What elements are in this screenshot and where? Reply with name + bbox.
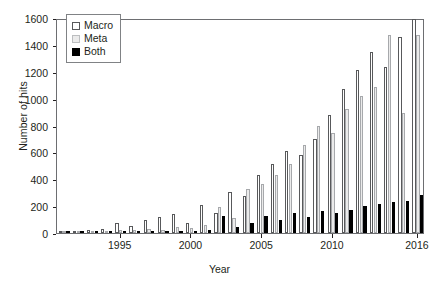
bar-both (349, 210, 352, 233)
bar-both (95, 231, 98, 233)
y-tick-label: 600 (18, 148, 48, 159)
bar-macro (172, 214, 175, 233)
bar-group (313, 20, 324, 233)
bar-macro (129, 226, 132, 233)
bar-macro (144, 220, 147, 233)
bar-group (370, 20, 381, 233)
bar-group (384, 20, 395, 233)
bar-group (158, 20, 169, 233)
bar-meta (402, 113, 405, 233)
bar-meta (345, 109, 348, 233)
bar-meta (374, 87, 377, 233)
x-tick-mark (120, 234, 121, 238)
bar-meta (147, 229, 150, 233)
bar-group (200, 20, 211, 233)
bar-both (264, 216, 267, 233)
bar-meta (246, 189, 249, 233)
bar-meta (62, 231, 65, 233)
bar-both (194, 231, 197, 233)
bar-both (137, 231, 140, 233)
bar-macro (285, 151, 288, 233)
y-tick-label: 1000 (18, 95, 48, 106)
x-axis-title: Year (0, 263, 439, 275)
y-tick-label: 1200 (18, 68, 48, 79)
bar-macro (87, 230, 90, 233)
bar-group (271, 20, 282, 233)
bar-both (109, 231, 112, 233)
bar-meta (105, 231, 108, 233)
legend-item-label: Meta (84, 33, 107, 44)
bar-both (279, 220, 282, 233)
bar-both (236, 227, 239, 233)
bar-macro (228, 192, 231, 233)
bar-group (243, 20, 254, 233)
bar-macro (370, 52, 373, 233)
bar-group (285, 20, 296, 233)
bar-both (406, 201, 409, 233)
bar-meta (77, 231, 80, 233)
bar-meta (91, 231, 94, 233)
bar-meta (204, 225, 207, 233)
bar-macro (299, 155, 302, 233)
figure: Number of hits 0200400600800100012001400… (0, 0, 439, 285)
bar-macro (412, 19, 415, 233)
x-tick-label: 2016 (392, 240, 439, 251)
bar-macro (73, 231, 76, 233)
bar-macro (313, 139, 316, 233)
bar-group (129, 20, 140, 233)
bar-meta (218, 207, 221, 233)
x-tick-label: 2010 (307, 240, 357, 251)
bar-meta (133, 230, 136, 233)
legend: MacroMetaBoth (66, 14, 121, 63)
meta-swatch (72, 35, 80, 43)
bar-macro (200, 205, 203, 233)
x-tick-mark (190, 234, 191, 238)
legend-item: Macro (72, 19, 113, 32)
y-tick-label: 1600 (18, 14, 48, 25)
bar-both (80, 231, 83, 233)
legend-item-label: Macro (84, 20, 113, 31)
bar-group (144, 20, 155, 233)
bar-group (214, 20, 225, 233)
figure-caption (6, 279, 433, 285)
bar-meta (275, 175, 278, 233)
bar-meta (416, 35, 419, 233)
bar-macro (214, 213, 217, 233)
bar-meta (232, 218, 235, 233)
bar-meta (161, 230, 164, 233)
bar-macro (101, 229, 104, 233)
x-tick-mark (261, 234, 262, 238)
bar-group (186, 20, 197, 233)
bar-macro (115, 223, 118, 233)
bar-group (398, 20, 409, 233)
x-tick-label: 2005 (236, 240, 286, 251)
y-tick-label: 0 (18, 229, 48, 240)
y-tick-label: 400 (18, 175, 48, 186)
bar-both (392, 202, 395, 233)
bar-both (208, 230, 211, 233)
bar-group (342, 20, 353, 233)
y-tick-label: 800 (18, 122, 48, 133)
bar-macro (342, 89, 345, 233)
bar-both (179, 231, 182, 233)
legend-item-label: Both (84, 46, 106, 57)
bar-meta (388, 35, 391, 233)
bar-macro (271, 164, 274, 233)
bar-both (222, 216, 225, 233)
bar-meta (176, 227, 179, 233)
bar-both (378, 204, 381, 233)
bar-meta (119, 230, 122, 233)
bar-both (66, 231, 69, 233)
legend-item: Meta (72, 32, 113, 45)
bar-group (412, 20, 423, 233)
bar-macro (398, 37, 401, 233)
bar-both (250, 223, 253, 233)
bar-macro (356, 70, 359, 233)
bar-both (335, 213, 338, 233)
bar-both (420, 195, 423, 233)
bar-meta (331, 133, 334, 233)
y-tick-label: 200 (18, 202, 48, 213)
y-axis-title: Number of hits (17, 36, 29, 196)
bar-macro (243, 196, 246, 233)
bar-macro (257, 175, 260, 233)
